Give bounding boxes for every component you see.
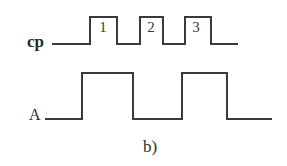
signal-label-cp: cp	[27, 33, 44, 50]
figure-caption: b)	[120, 138, 180, 155]
pulse-number-3: 3	[188, 20, 204, 35]
a-waveform-trace	[45, 73, 272, 119]
pulse-number-2: 2	[143, 20, 159, 35]
pulse-number-1: 1	[95, 20, 111, 35]
timing-diagram-figure: cp A 1 2 3 b)	[0, 0, 287, 166]
signal-label-a: A	[29, 107, 41, 123]
